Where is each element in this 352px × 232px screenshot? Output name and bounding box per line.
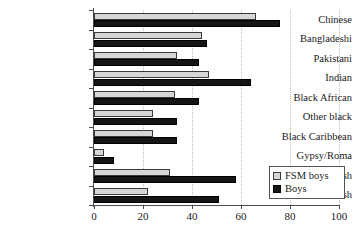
category-label-other-black: Other black <box>262 111 352 123</box>
bar-boys-black-african <box>94 98 199 105</box>
category-label-black-african: Black African <box>262 92 352 104</box>
x-tick-label-100: 100 <box>331 210 348 223</box>
category-label-black-caribbean: Black Caribbean <box>262 131 352 143</box>
bar-fsm-boys-white-british <box>94 188 148 195</box>
legend-swatch-fsm-boys-icon <box>273 172 281 180</box>
x-tick-100 <box>339 205 340 209</box>
x-tick-40 <box>192 205 193 209</box>
bar-fsm-boys-pakistani <box>94 52 177 59</box>
x-tick-label-20: 20 <box>138 210 149 223</box>
y-tick-2 <box>89 49 93 50</box>
x-axis-line <box>93 205 340 206</box>
x-tick-label-40: 40 <box>187 210 198 223</box>
y-tick-end <box>89 205 93 206</box>
category-label-pakistani: Pakistani <box>262 53 352 65</box>
bar-boys-white-british <box>94 196 219 203</box>
bar-boys-indian <box>94 79 251 86</box>
bar-fsm-boys-indian <box>94 71 209 78</box>
bar-boys-black-caribbean <box>94 137 177 144</box>
bar-boys-pakistani <box>94 59 199 66</box>
bar-boys-irish <box>94 176 236 183</box>
bar-fsm-boys-chinese <box>94 13 256 20</box>
y-tick-8 <box>89 166 93 167</box>
bar-boys-chinese <box>94 20 280 27</box>
y-tick-3 <box>89 69 93 70</box>
x-tick-0 <box>94 205 95 209</box>
legend-item-boys: Boys <box>273 182 341 195</box>
x-tick-label-0: 0 <box>91 210 97 223</box>
bar-fsm-boys-black-african <box>94 91 175 98</box>
bar-fsm-boys-irish <box>94 169 170 176</box>
y-axis-line <box>93 8 94 207</box>
x-tick-label-80: 80 <box>285 210 296 223</box>
y-tick-0 <box>89 10 93 11</box>
y-tick-5 <box>89 108 93 109</box>
legend-swatch-boys-icon <box>273 185 281 193</box>
legend-label-boys: Boys <box>285 183 307 195</box>
bar-fsm-boys-black-caribbean <box>94 130 153 137</box>
x-tick-label-60: 60 <box>236 210 247 223</box>
bar-chart: 020406080100 ChineseBangladeshiPakistani… <box>0 0 352 232</box>
category-label-gypsy-roma: Gypsy/Roma <box>262 150 352 162</box>
x-tick-80 <box>290 205 291 209</box>
category-label-bangladeshi: Bangladeshi <box>262 33 352 45</box>
x-tick-20 <box>143 205 144 209</box>
bar-boys-gypsy-roma <box>94 157 114 164</box>
y-tick-6 <box>89 127 93 128</box>
bar-fsm-boys-bangladeshi <box>94 32 202 39</box>
bar-fsm-boys-other-black <box>94 110 153 117</box>
category-label-indian: Indian <box>262 72 352 84</box>
gridline-60 <box>241 10 242 205</box>
chart-legend: FSM boys Boys <box>269 166 345 199</box>
y-tick-4 <box>89 88 93 89</box>
bar-fsm-boys-gypsy-roma <box>94 149 104 156</box>
x-tick-60 <box>241 205 242 209</box>
category-label-chinese: Chinese <box>262 14 352 26</box>
legend-label-fsm-boys: FSM boys <box>285 170 328 182</box>
y-tick-7 <box>89 147 93 148</box>
y-tick-1 <box>89 30 93 31</box>
bar-boys-other-black <box>94 118 177 125</box>
legend-item-fsm-boys: FSM boys <box>273 169 341 182</box>
y-tick-9 <box>89 186 93 187</box>
bar-boys-bangladeshi <box>94 40 207 47</box>
